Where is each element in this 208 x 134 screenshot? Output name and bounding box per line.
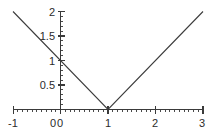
x-tick-label-1: 1 [105, 117, 111, 129]
y-tick-label-1-5: 1.5 [40, 30, 55, 42]
absolute-value-line-chart: -1 0 1 2 3 0 0.5 1 1.5 2 [0, 0, 208, 134]
x-tick-label--1: -1 [8, 117, 18, 129]
y-tick-label-2: 2 [49, 6, 55, 18]
x-tick-label-3: 3 [199, 117, 205, 129]
y-tick-label-0-5: 0.5 [40, 79, 55, 91]
x-tick-label-2: 2 [152, 117, 158, 129]
y-tick-label-0: 0 [50, 117, 56, 129]
chart-plot-area: -1 0 1 2 3 0 0.5 1 1.5 2 [0, 0, 208, 134]
data-series-absolute-value [13, 12, 203, 110]
x-tick-label-0: 0 [57, 117, 63, 129]
y-tick-label-1: 1 [49, 55, 55, 67]
